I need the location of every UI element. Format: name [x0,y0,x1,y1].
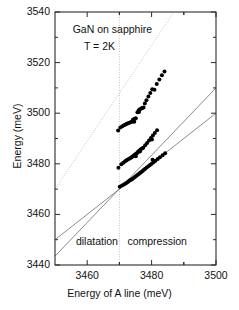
y-tick-label: 3520 [10,56,50,68]
y-tick-label: 3500 [10,106,50,118]
annotation-temperature: T = 2K [84,40,115,52]
y-tick-label: 3480 [10,157,50,169]
data-point [157,78,161,82]
data-point [150,138,154,142]
scatter-plot-figure: Energy (meV) Energy of A line (meV) 3440… [0,0,239,310]
data-point [137,110,141,114]
y-tick-label: 3540 [10,5,50,17]
x-tick-label: 3460 [65,269,109,281]
y-axis-title: Energy (meV) [11,81,23,191]
y-tick-label: 3440 [10,258,50,270]
reference-line-b-line-fit [55,88,216,256]
annotation-compression: compression [127,235,187,247]
data-point [162,69,166,73]
annotation-sample: GaN on sapphire [73,23,152,35]
series-0 [116,69,166,132]
data-point [148,91,152,95]
x-tick-label: 3480 [130,269,174,281]
y-tick-label: 3460 [10,207,50,219]
axes-frame [55,12,216,265]
data-point [153,88,157,92]
data-point [151,158,155,162]
data-point [132,120,136,124]
x-tick-label: 3500 [194,269,238,281]
x-axis-title: Energy of A line (meV) [0,287,239,299]
data-point [138,149,142,153]
data-point [142,105,146,109]
data-point [134,154,138,158]
annotation-dilatation: dilatation [76,235,118,247]
data-point [144,98,148,102]
series-2 [118,151,167,189]
data-point [116,166,120,170]
data-point [155,128,159,132]
data-point [134,116,138,120]
data-point [160,73,164,77]
data-point [163,151,167,155]
data-point [146,95,150,99]
axis-ticks [55,12,216,265]
data-point [155,82,159,86]
